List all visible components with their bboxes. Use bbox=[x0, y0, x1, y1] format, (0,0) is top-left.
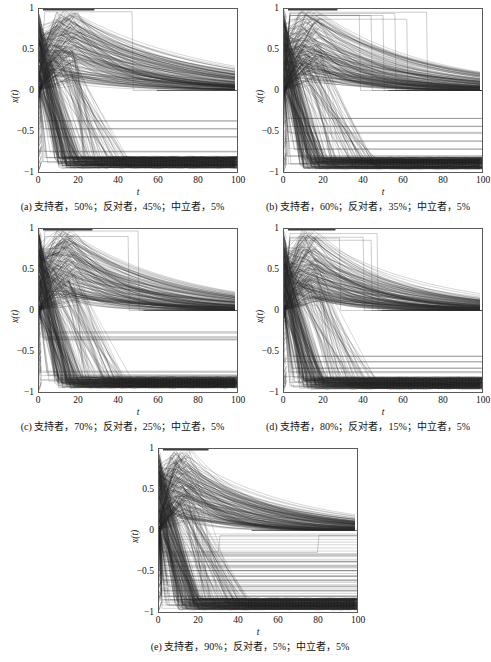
panel-a-plot-area: 1 0.5 0 −0.5 −1 0 20 40 60 80 100 t bbox=[38, 8, 238, 173]
panel-e-ytick-2: 0 bbox=[126, 526, 154, 536]
panel-a-plot-frame bbox=[38, 8, 238, 173]
panel-c-xtick-4: 80 bbox=[188, 396, 208, 406]
panel-b-xtick-3: 60 bbox=[393, 176, 413, 186]
panel-b-ytick-3: −0.5 bbox=[247, 127, 279, 137]
panel-c-ytick-2: 0 bbox=[6, 306, 34, 316]
panel-d-trajectories bbox=[284, 229, 482, 392]
scan-artifact-line bbox=[150, 654, 340, 655]
panel-e-ytick-0: 1 bbox=[126, 444, 154, 454]
panel-d-xtick-4: 80 bbox=[433, 396, 453, 406]
panel-c-ytick-1: 0.5 bbox=[6, 265, 34, 275]
panel-a-ytick-2: 0 bbox=[6, 86, 34, 96]
panel-c-x-axis-label: t bbox=[128, 407, 148, 417]
panel-d-plot-area: 1 0.5 0 −0.5 −1 0 20 40 60 80 100 t bbox=[283, 228, 483, 393]
panel-d-ytick-1: 0.5 bbox=[251, 265, 279, 275]
panel-a-ytick-0: 1 bbox=[6, 4, 34, 14]
panel-a-caption: (a) 支持者，50%；反对者，45%；中立者，5% bbox=[0, 198, 245, 213]
panel-d-xtick-1: 20 bbox=[313, 396, 333, 406]
panel-b-xtick-0: 0 bbox=[273, 176, 293, 186]
panel-e-x-axis-label: t bbox=[248, 627, 268, 637]
panel-a-x-axis-label: t bbox=[128, 187, 148, 197]
panel-a-xtick-1: 20 bbox=[68, 176, 88, 186]
panel-d-ytick-2: 0 bbox=[251, 306, 279, 316]
panel-e: x(t) 1 0.5 0 −0.5 −1 0 20 40 60 80 100 t… bbox=[110, 440, 390, 662]
panel-b-trajectories bbox=[284, 9, 482, 172]
panel-b-xtick-5: 100 bbox=[471, 176, 491, 186]
panel-b-xtick-2: 40 bbox=[353, 176, 373, 186]
panel-a-xtick-4: 80 bbox=[188, 176, 208, 186]
panel-e-xtick-2: 40 bbox=[228, 616, 248, 626]
panel-b-ytick-0: 1 bbox=[251, 4, 279, 14]
panel-a-xtick-2: 40 bbox=[108, 176, 128, 186]
panel-d-xtick-5: 100 bbox=[471, 396, 491, 406]
panel-b-plot-area: 1 0.5 0 −0.5 −1 0 20 40 60 80 100 t bbox=[283, 8, 483, 173]
panel-e-xtick-4: 80 bbox=[308, 616, 328, 626]
panel-a-xtick-3: 60 bbox=[148, 176, 168, 186]
panel-b-xtick-4: 80 bbox=[433, 176, 453, 186]
panel-d-x-axis-label: t bbox=[373, 407, 393, 417]
panel-d-ytick-3: −0.5 bbox=[247, 347, 279, 357]
panel-e-plot-area: 1 0.5 0 −0.5 −1 0 20 40 60 80 100 t bbox=[158, 448, 358, 613]
panel-e-xtick-0: 0 bbox=[148, 616, 168, 626]
panel-c-plot-area: 1 0.5 0 −0.5 −1 0 20 40 60 80 100 t bbox=[38, 228, 238, 393]
panel-c-plot-frame bbox=[38, 228, 238, 393]
panel-c: x(t) 1 0.5 0 −0.5 −1 0 20 40 60 80 100 t… bbox=[0, 220, 245, 440]
panel-b-ytick-2: 0 bbox=[251, 86, 279, 96]
panel-d-plot-frame bbox=[283, 228, 483, 393]
panel-b-caption: (b) 支持者，60%；反对者，35%；中立者，5% bbox=[245, 198, 491, 213]
panel-d-xtick-2: 40 bbox=[353, 396, 373, 406]
panel-e-ytick-1: 0.5 bbox=[126, 485, 154, 495]
panel-c-xtick-0: 0 bbox=[28, 396, 48, 406]
panel-d-xtick-0: 0 bbox=[273, 396, 293, 406]
figure-container: x(t) 1 0.5 0 −0.5 −1 0 20 40 60 80 100 t… bbox=[0, 0, 491, 662]
panel-c-xtick-1: 20 bbox=[68, 396, 88, 406]
panel-c-ytick-3: −0.5 bbox=[2, 347, 34, 357]
panel-b-plot-frame bbox=[283, 8, 483, 173]
panel-c-trajectories bbox=[39, 229, 237, 392]
panel-c-ytick-0: 1 bbox=[6, 224, 34, 234]
panel-e-caption: (e) 支持者，90%；反对者，5%；中立者，5% bbox=[110, 638, 390, 653]
panel-e-xtick-3: 60 bbox=[268, 616, 288, 626]
panel-e-xtick-1: 20 bbox=[188, 616, 208, 626]
panel-e-xtick-5: 100 bbox=[346, 616, 370, 626]
panel-e-plot-frame bbox=[158, 448, 358, 613]
panel-a-ytick-3: −0.5 bbox=[2, 127, 34, 137]
panel-d-ytick-0: 1 bbox=[251, 224, 279, 234]
panel-a: x(t) 1 0.5 0 −0.5 −1 0 20 40 60 80 100 t… bbox=[0, 0, 245, 220]
panel-a-xtick-0: 0 bbox=[28, 176, 48, 186]
panel-c-xtick-3: 60 bbox=[148, 396, 168, 406]
panel-c-xtick-2: 40 bbox=[108, 396, 128, 406]
panel-b-xtick-1: 20 bbox=[313, 176, 333, 186]
panel-d: x(t) 1 0.5 0 −0.5 −1 0 20 40 60 80 100 t… bbox=[245, 220, 491, 440]
panel-d-xtick-3: 60 bbox=[393, 396, 413, 406]
panel-a-trajectories bbox=[39, 9, 237, 172]
panel-a-ytick-1: 0.5 bbox=[6, 45, 34, 55]
panel-e-ytick-3: −0.5 bbox=[122, 567, 154, 577]
panel-c-caption: (c) 支持者，70%；反对者，25%；中立者，5% bbox=[0, 418, 245, 433]
panel-d-caption: (d) 支持者，80%；反对者，15%；中立者，5% bbox=[245, 418, 491, 433]
panel-b-x-axis-label: t bbox=[373, 187, 393, 197]
panel-e-trajectories bbox=[159, 449, 357, 612]
panel-b: x(t) 1 0.5 0 −0.5 −1 0 20 40 60 80 100 t… bbox=[245, 0, 491, 220]
panel-b-ytick-1: 0.5 bbox=[251, 45, 279, 55]
